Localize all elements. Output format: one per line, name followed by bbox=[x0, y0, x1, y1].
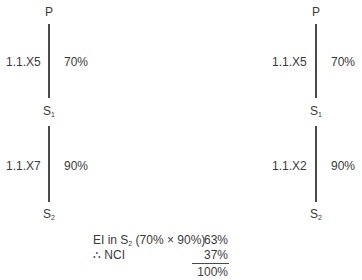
nci-label: ∴ NCI bbox=[93, 248, 125, 262]
sum-rule bbox=[192, 263, 229, 264]
node-sub2: S2 bbox=[39, 207, 59, 221]
node-parent: P bbox=[39, 5, 59, 19]
ei-label: EI in S2 (70% × 90%) bbox=[93, 233, 205, 247]
link-pct-label: 70% bbox=[64, 55, 88, 69]
node-parent: P bbox=[306, 5, 326, 19]
link-ref-label: 1.1.X2 bbox=[272, 159, 307, 173]
link-line bbox=[315, 24, 317, 98]
ei-value: 63% bbox=[192, 233, 228, 247]
node-sub1: S1 bbox=[39, 104, 59, 118]
link-line bbox=[48, 24, 50, 98]
link-ref-label: 1.1.X5 bbox=[6, 55, 41, 69]
total-value: 100% bbox=[192, 265, 228, 279]
link-pct-label: 70% bbox=[331, 55, 355, 69]
link-line bbox=[315, 126, 317, 202]
link-ref-label: 1.1.X5 bbox=[272, 55, 307, 69]
node-sub2: S2 bbox=[306, 207, 326, 221]
node-sub1: S1 bbox=[306, 104, 326, 118]
link-line bbox=[48, 126, 50, 202]
link-pct-label: 90% bbox=[64, 159, 88, 173]
link-ref-label: 1.1.X7 bbox=[6, 159, 41, 173]
link-pct-label: 90% bbox=[331, 159, 355, 173]
nci-value: 37% bbox=[192, 248, 228, 262]
